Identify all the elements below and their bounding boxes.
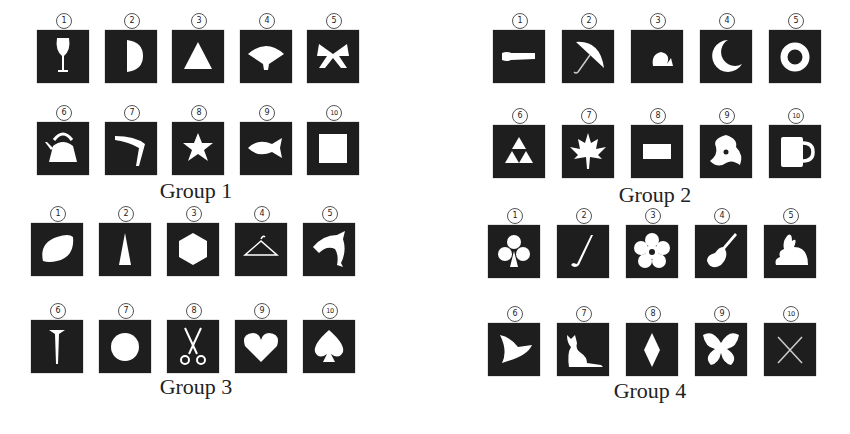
tile-diamond (626, 323, 678, 376)
club-icon (488, 225, 540, 278)
tile-club (488, 225, 540, 278)
item-number: 4 (719, 13, 735, 29)
group-label: Group 4 (614, 378, 687, 404)
x-cross-icon (764, 323, 816, 376)
tile-star (172, 122, 224, 175)
tile-tall-triangle (99, 223, 151, 276)
item-number: 1 (512, 13, 528, 29)
golf-club-icon (557, 225, 609, 278)
item-number: 6 (56, 105, 72, 121)
item-number: 5 (322, 206, 338, 222)
item-number: 8 (650, 108, 666, 124)
dolphin-icon (303, 223, 355, 276)
tile-baseball-bat (493, 30, 545, 83)
heart-icon (235, 320, 287, 373)
tile-ribbon-bow (307, 30, 359, 83)
kettle-icon (37, 122, 89, 175)
item-number: 4 (254, 206, 270, 222)
tile-fish (240, 122, 292, 175)
tile-spade (303, 320, 355, 373)
item-number: 10 (326, 105, 342, 121)
tile-rabbit (764, 225, 816, 278)
tile-wine-glass (37, 30, 89, 83)
tile-crescent-moon (700, 30, 752, 83)
tile-guitar (695, 225, 747, 278)
item-number: 9 (714, 306, 730, 322)
tile-rectangle (631, 125, 683, 178)
group-label: Group 2 (619, 182, 692, 208)
tile-scissors (167, 320, 219, 373)
tile-x-cross (764, 323, 816, 376)
wine-glass-icon (37, 30, 89, 83)
tile-triangle (172, 30, 224, 83)
folding-fan-icon (240, 30, 292, 83)
tile-ring (769, 30, 821, 83)
item-number: 3 (645, 208, 661, 224)
spade-icon (303, 320, 355, 373)
tile-square (307, 122, 359, 175)
item-number: 8 (186, 303, 202, 319)
item-number: 2 (118, 206, 134, 222)
rectangle-icon (631, 125, 683, 178)
witch-hat-icon (488, 323, 540, 376)
tile-kettle (37, 122, 89, 175)
item-number: 7 (124, 105, 140, 121)
item-number: 5 (326, 13, 342, 29)
tile-mug (769, 125, 821, 178)
tall-triangle-icon (99, 223, 151, 276)
ring-icon (769, 30, 821, 83)
scissors-icon (167, 320, 219, 373)
item-number: 4 (714, 208, 730, 224)
square-icon (307, 122, 359, 175)
baseball-bat-icon (493, 30, 545, 83)
guitar-icon (695, 225, 747, 278)
crescent-moon-icon (700, 30, 752, 83)
tile-boomerang (105, 122, 157, 175)
shuriken-icon (700, 125, 752, 178)
group-label: Group 1 (160, 178, 233, 204)
boomerang-icon (105, 122, 157, 175)
item-number: 3 (191, 13, 207, 29)
tile-butterfly (695, 323, 747, 376)
tile-folding-fan (240, 30, 292, 83)
tile-cat (557, 323, 609, 376)
item-number: 7 (581, 108, 597, 124)
circle-icon (99, 320, 151, 373)
tile-nail (31, 320, 83, 373)
rabbit-icon (764, 225, 816, 278)
item-number: 1 (50, 206, 66, 222)
item-number: 8 (645, 306, 661, 322)
umbrella-icon (562, 30, 614, 83)
nail-icon (31, 320, 83, 373)
tile-umbrella (562, 30, 614, 83)
item-number: 2 (124, 13, 140, 29)
tile-maple-leaf (562, 125, 614, 178)
half-circle-icon (105, 30, 157, 83)
item-number: 7 (118, 303, 134, 319)
tile-heart (235, 320, 287, 373)
item-number: 9 (719, 108, 735, 124)
item-number: 6 (50, 303, 66, 319)
tile-lemon (31, 223, 83, 276)
hexagon-icon (167, 223, 219, 276)
flower-icon (626, 225, 678, 278)
item-number: 1 (56, 13, 72, 29)
item-number: 5 (788, 13, 804, 29)
tile-flower (626, 225, 678, 278)
item-number: 7 (576, 306, 592, 322)
group-label: Group 3 (160, 374, 233, 400)
item-number: 3 (650, 13, 666, 29)
item-number: 10 (322, 303, 338, 319)
butterfly-icon (695, 323, 747, 376)
item-number: 4 (259, 13, 275, 29)
diamond-icon (626, 323, 678, 376)
item-number: 10 (788, 108, 804, 124)
fish-icon (240, 122, 292, 175)
item-number: 2 (581, 13, 597, 29)
item-number: 5 (783, 208, 799, 224)
tile-half-circle (105, 30, 157, 83)
lemon-icon (31, 223, 83, 276)
cat-icon (557, 323, 609, 376)
tile-shuriken (700, 125, 752, 178)
tile-triforce (493, 125, 545, 178)
